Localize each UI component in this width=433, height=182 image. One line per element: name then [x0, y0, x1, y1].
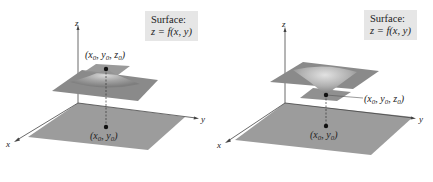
point-3d-label: (x0, y0, z0)	[364, 93, 405, 106]
surface-label-equation: z = f(x, y)	[151, 26, 192, 38]
surface-label-title: Surface:	[151, 14, 192, 26]
critical-point-3d	[324, 93, 328, 97]
z-axis-label: z	[74, 18, 79, 28]
surface-label-equation: z = f(x, y)	[370, 25, 411, 37]
y-axis-arrow-icon	[194, 117, 199, 120]
critical-point-3d	[104, 67, 108, 71]
point-3d-label: (x0, y0, z0)	[85, 49, 126, 62]
figure-relative-minimum: z y x (x0, y0, z0) (x0, y0) Surface: z =…	[213, 0, 429, 182]
x-axis-label: x	[216, 140, 221, 150]
y-axis-label: y	[418, 114, 423, 124]
figure-relative-maximum: z y x (x0, y0, z0) (x0, y0) Surface: z =…	[0, 0, 216, 182]
z-axis-label: z	[281, 19, 286, 29]
surface-label-title: Surface:	[370, 13, 411, 25]
critical-point-2d	[324, 124, 328, 128]
surface-label-box: Surface: z = f(x, y)	[364, 10, 417, 40]
x-axis-label: x	[5, 139, 10, 149]
x-axis-arrow-icon	[14, 138, 20, 143]
surface-label-box: Surface: z = f(x, y)	[145, 11, 198, 41]
critical-point-2d	[104, 125, 108, 129]
y-axis-label: y	[200, 114, 205, 124]
y-axis-arrow-icon	[411, 117, 416, 120]
